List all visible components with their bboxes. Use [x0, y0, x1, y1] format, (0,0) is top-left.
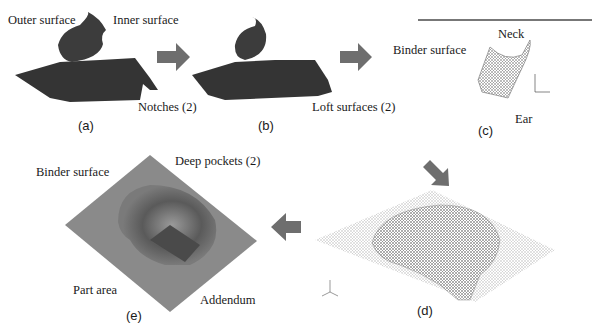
caption-e: (e)	[126, 308, 142, 323]
label-binder-surface-c: Binder surface	[393, 43, 466, 58]
caption-c: (c)	[478, 123, 493, 138]
caption-d: (d)	[417, 303, 433, 318]
axis-triad-d	[322, 280, 338, 296]
label-addendum: Addendum	[200, 293, 256, 308]
label-outer-surface: Outer surface	[8, 13, 76, 28]
part-geometry-b	[192, 17, 332, 100]
flow-arrow-d-to-e	[271, 213, 301, 241]
caption-b: (b)	[258, 118, 274, 133]
mesh-model-d	[315, 190, 555, 302]
caption-a: (a)	[78, 118, 94, 133]
flow-arrow-a-to-b	[157, 43, 190, 71]
label-binder-surface-e: Binder surface	[36, 165, 109, 180]
flow-arrow-b-to-c	[340, 43, 372, 71]
label-part-area: Part area	[73, 283, 117, 298]
label-ear: Ear	[515, 112, 532, 127]
label-loft-surfaces: Loft surfaces (2)	[312, 100, 395, 115]
label-deep-pockets: Deep pockets (2)	[175, 154, 260, 169]
ear-mesh-c	[478, 40, 530, 98]
axis-triad-c	[535, 74, 550, 92]
label-inner-surface: Inner surface	[113, 13, 179, 28]
flow-arrow-c-to-d	[423, 160, 449, 186]
label-neck: Neck	[498, 27, 524, 42]
label-notches: Notches (2)	[138, 100, 197, 115]
